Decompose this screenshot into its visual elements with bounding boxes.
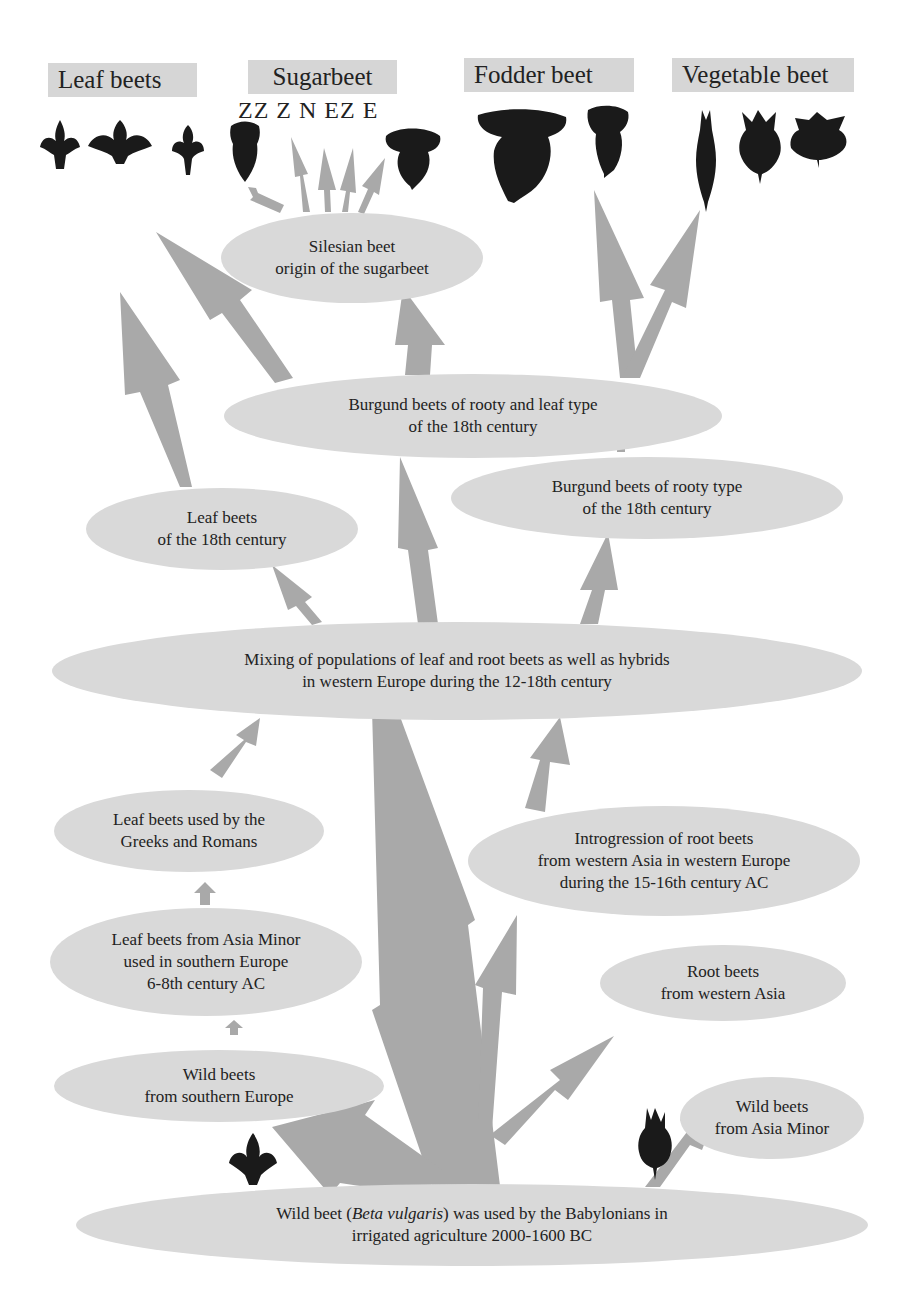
node-burgund-rooty-leaf: Burgund beets of rooty and leaf type of … [224, 374, 722, 458]
fodder-beet-icon [587, 106, 628, 178]
arrow-leaf18th-to-leaf-beets [120, 292, 192, 487]
arrow-sugar-n [318, 148, 336, 212]
sugarbeet-root-icon [386, 129, 441, 191]
arrow-sugar-z [291, 137, 310, 212]
arrow-sugar-zz [248, 187, 284, 213]
arrow-mixing-to-burgund-rooty [580, 533, 618, 624]
node-greeks-romans: Leaf beets used by the Greeks and Romans [54, 790, 324, 872]
vegetable-beet-icon [790, 112, 846, 168]
arrow-mixing-to-leaf-18th [272, 565, 322, 625]
node-leaf-beets-asia-minor: Leaf beets from Asia Minor used in south… [50, 908, 362, 1016]
node-wild-beet-babylonians: Wild beet (Beta vulgaris) was used by th… [76, 1184, 868, 1266]
arrow-burgundrl-to-silesian [395, 288, 445, 375]
sugarbeet-type-codes: ZZ Z N EZ E [238, 97, 378, 124]
category-leaf-beets: Leaf beets [48, 63, 197, 97]
arrow-small-2 [194, 882, 216, 905]
node-wild-beets-asia-minor: Wild beets from Asia Minor [680, 1077, 864, 1159]
category-sugarbeet: Sugarbeet [248, 60, 397, 94]
node-leaf-beets-18th: Leaf beets of the 18th century [86, 488, 358, 570]
arrow-to-root-western-asia [490, 1036, 614, 1145]
arrow-sugar-e [358, 158, 385, 214]
category-fodder-beet: Fodder beet [464, 58, 634, 92]
leaf-beet-icon [40, 120, 80, 169]
node-burgund-rooty: Burgund beets of rooty type of the 18th … [451, 457, 843, 539]
arrow-to-root-beets-up [475, 915, 517, 1130]
arrow-sugar-ez [340, 148, 356, 212]
arrow-introgression-to-mixing [525, 717, 570, 812]
node-silesian-beet: Silesian beet origin of the sugarbeet [221, 213, 483, 303]
vegetable-beet-icon [739, 110, 781, 184]
node-introgression: Introgression of root beets from western… [468, 806, 860, 916]
leaf-beet-icon [172, 125, 204, 175]
node-root-beets-western-asia: Root beets from western Asia [600, 945, 846, 1021]
arrow-mixing-to-burgund-rl [398, 457, 438, 624]
leaf-beet-icon [88, 120, 152, 164]
arrow-small-1 [225, 1020, 243, 1035]
node-wild-beets-southern-europe: Wild beets from southern Europe [54, 1050, 384, 1122]
sugarbeet-root-icon [230, 122, 260, 183]
vegetable-beet-icon [696, 110, 716, 212]
wild-leaf-beet-icon [229, 1133, 277, 1185]
category-vegetable-beet: Vegetable beet [672, 58, 854, 92]
arrow-greeks-to-mixing [210, 718, 260, 778]
node-mixing-populations: Mixing of populations of leaf and root b… [52, 622, 862, 720]
species-name: Beta vulgaris [352, 1204, 443, 1223]
fodder-beet-icon [478, 109, 567, 203]
